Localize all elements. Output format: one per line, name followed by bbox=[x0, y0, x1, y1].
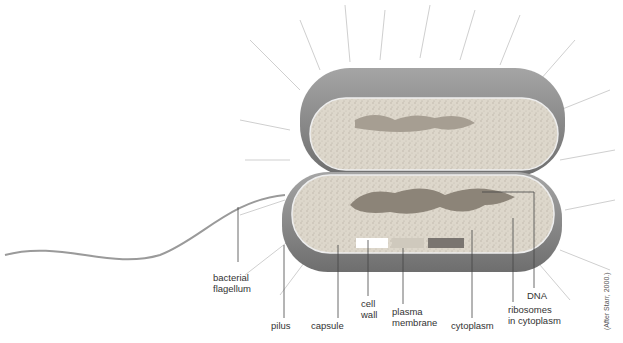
label-capsule: capsule bbox=[311, 320, 344, 331]
flagellum-line-2: flagellum bbox=[213, 283, 251, 294]
label-cell-wall: cell wall bbox=[361, 298, 377, 320]
label-cytoplasm: cytoplasm bbox=[451, 320, 494, 331]
top-half-cell bbox=[300, 68, 565, 176]
flagellum-line-1: bacterial bbox=[213, 272, 251, 283]
label-bacterial-flagellum: bacterial flagellum bbox=[213, 272, 251, 294]
label-pilus: pilus bbox=[271, 320, 291, 331]
ribosomes-line-1: ribosomes bbox=[508, 304, 561, 315]
label-dna: DNA bbox=[527, 290, 547, 301]
bottom-half-cell bbox=[282, 172, 562, 272]
plasma-membrane-line-1: plasma bbox=[392, 306, 437, 317]
figure-credit: (After Starr, 2000.) bbox=[603, 272, 610, 330]
capsule-layer bbox=[428, 238, 464, 248]
cell-wall-line-2: wall bbox=[361, 309, 377, 320]
cell-wall-layer bbox=[356, 238, 388, 248]
ribosomes-line-2: in cytoplasm bbox=[508, 315, 561, 326]
plasma-membrane-line-2: membrane bbox=[392, 317, 437, 328]
cell-wall-line-1: cell bbox=[361, 298, 377, 309]
label-plasma-membrane: plasma membrane bbox=[392, 306, 437, 328]
bacterial-flagellum bbox=[5, 195, 285, 259]
plasma-membrane-layer bbox=[392, 238, 424, 248]
label-ribosomes: ribosomes in cytoplasm bbox=[508, 304, 561, 326]
